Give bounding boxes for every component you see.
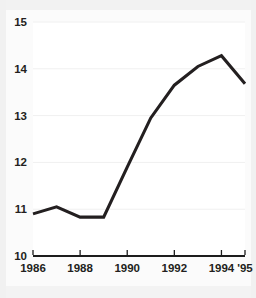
chart-container: 101112131415 19861988199019921994'95 <box>0 0 256 298</box>
x-tick-label-1990: 1990 <box>114 262 140 274</box>
y-tick-label-14: 14 <box>14 63 27 75</box>
y-tick-label-10: 10 <box>14 250 27 262</box>
x-axis-tick-labels: 19861988199019921994'95 <box>20 262 253 274</box>
x-tick-label-1986: 1986 <box>20 262 46 274</box>
y-tick-label-13: 13 <box>14 110 27 122</box>
y-tick-label-11: 11 <box>15 203 28 215</box>
x-tick-label-95: '95 <box>237 262 253 274</box>
x-tick-label-1994: 1994 <box>209 262 235 274</box>
line-chart-plot: 101112131415 19861988199019921994'95 <box>0 0 256 298</box>
y-axis-tick-labels: 101112131415 <box>14 16 27 262</box>
x-tick-label-1988: 1988 <box>67 262 93 274</box>
y-tick-label-15: 15 <box>14 16 27 28</box>
y-tick-label-12: 12 <box>14 156 27 168</box>
x-tick-label-1992: 1992 <box>162 262 188 274</box>
